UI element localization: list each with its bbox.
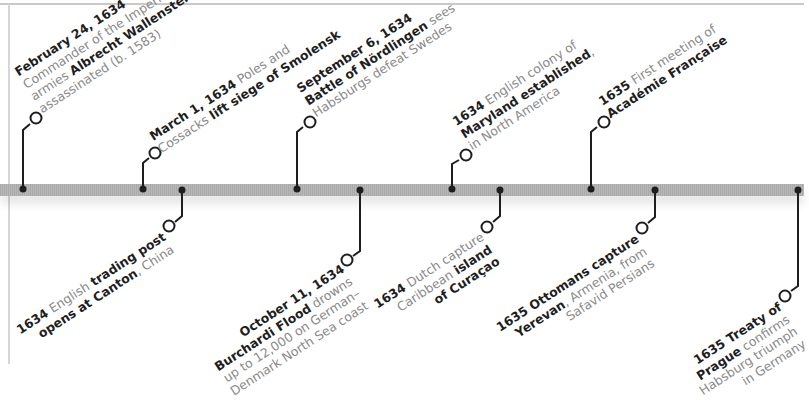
pin-nordlingen — [297, 117, 316, 190]
pin-curacao — [482, 190, 501, 233]
pin-prague — [780, 190, 799, 302]
pin-canton — [164, 190, 183, 232]
pin-academie — [591, 117, 610, 190]
pin-wallenstein — [23, 113, 42, 190]
pin-yerevan — [637, 190, 656, 234]
pin-smolensk — [143, 148, 161, 190]
pin-burchardi — [342, 190, 361, 266]
pin-maryland — [452, 150, 472, 190]
